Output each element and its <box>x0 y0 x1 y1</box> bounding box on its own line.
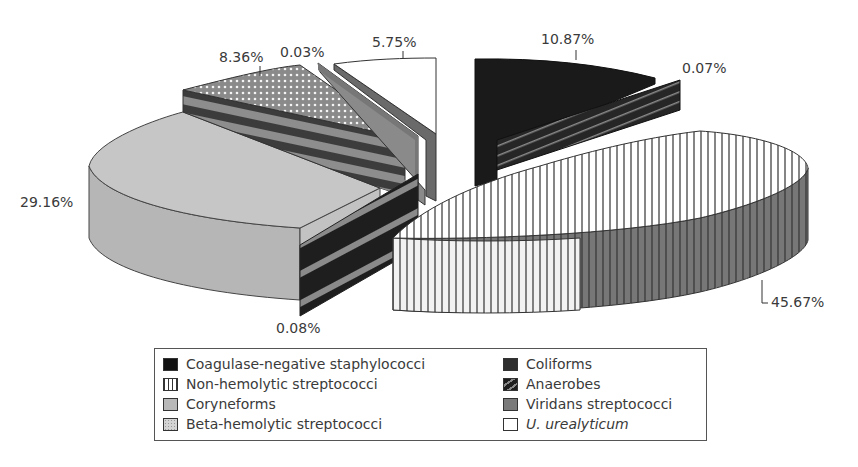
swatch-white-icon <box>503 418 518 431</box>
legend-item-beta-hemolytic: Beta-hemolytic streptococci <box>163 415 382 433</box>
legend-item-u-urealyticum: U. urealyticum <box>503 415 629 433</box>
legend-item-non-hemolytic: Non-hemolytic streptococci <box>163 375 378 393</box>
legend-item-cns: Coagulase-negative staphylococci <box>163 355 425 373</box>
swatch-mid-gray-icon <box>503 398 518 411</box>
swatch-diagonal-stripes-icon <box>503 378 518 391</box>
legend-label: Coryneforms <box>186 396 276 412</box>
label-viridans: 0.03% <box>280 44 324 60</box>
legend: Coagulase-negative staphylococci Non-hem… <box>154 348 707 441</box>
label-coryneforms: 29.16% <box>20 194 73 210</box>
legend-label: Non-hemolytic streptococci <box>186 376 378 392</box>
slice-non-hemolytic <box>393 131 808 313</box>
label-beta-hemolytic: 8.36% <box>219 49 263 65</box>
label-anaerobes: 0.08% <box>276 320 320 336</box>
legend-item-anaerobes: Anaerobes <box>503 375 600 393</box>
legend-item-viridans: Viridans streptococci <box>503 395 672 413</box>
legend-item-coryneforms: Coryneforms <box>163 395 276 413</box>
legend-label: Beta-hemolytic streptococci <box>186 416 382 432</box>
swatch-solid-black-icon <box>163 358 178 371</box>
legend-label: Viridans streptococci <box>526 396 672 412</box>
swatch-vertical-lines-icon <box>163 378 178 391</box>
legend-label: Anaerobes <box>526 376 600 392</box>
swatch-dark-stippled-icon <box>503 358 518 371</box>
legend-item-coliforms: Coliforms <box>503 355 592 373</box>
swatch-light-gray-icon <box>163 398 178 411</box>
label-coliforms: 0.07% <box>682 60 726 76</box>
label-cns: 10.87% <box>541 31 594 47</box>
legend-label: U. urealyticum <box>526 416 629 432</box>
label-non-hemolytic: 45.67% <box>771 294 824 310</box>
legend-label: Coliforms <box>526 356 592 372</box>
legend-label: Coagulase-negative staphylococci <box>186 356 425 372</box>
swatch-dotted-icon <box>163 418 178 431</box>
label-u-urealyticum: 5.75% <box>372 34 416 50</box>
